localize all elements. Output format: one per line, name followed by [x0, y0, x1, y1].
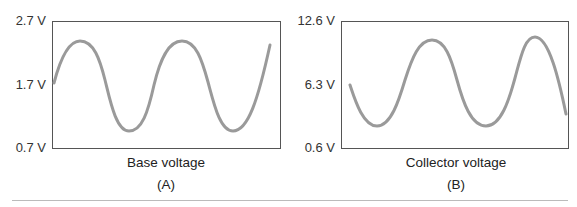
panel-b: 12.6 V 6.3 V 0.6 V Collector voltage (B)	[287, 0, 577, 207]
panel-label: (B)	[430, 177, 482, 192]
panel-caption: Base voltage	[80, 155, 252, 170]
collector-voltage-waveform	[287, 0, 577, 207]
bottom-divider	[12, 200, 568, 201]
panel-label: (A)	[140, 177, 192, 192]
panel-caption: Collector voltage	[353, 155, 559, 170]
base-voltage-waveform	[0, 0, 290, 207]
panel-a: 2.7 V 1.7 V 0.7 V Base voltage (A)	[0, 0, 290, 207]
